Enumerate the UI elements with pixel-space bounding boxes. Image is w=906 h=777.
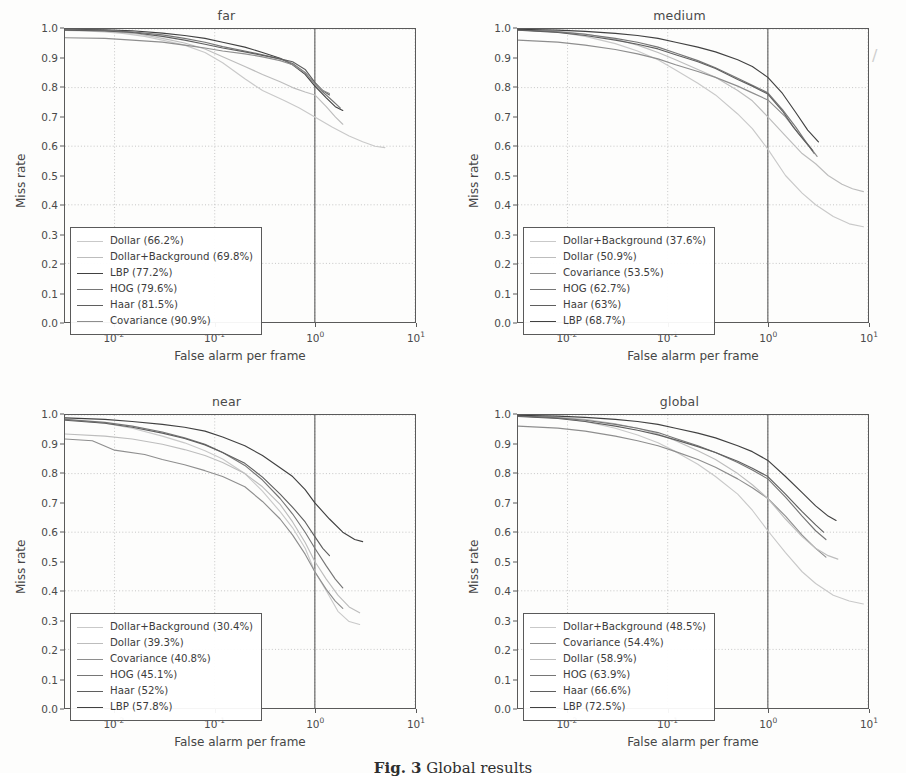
legend-label: Haar (66.6%) xyxy=(563,686,631,696)
caption-text: Global results xyxy=(426,759,532,777)
chart-legend[interactable]: Dollar+Background (48.5%)Covariance (54.… xyxy=(523,613,715,721)
legend-label: Dollar (66.2%) xyxy=(110,236,184,246)
y-axis-tick-mark xyxy=(513,414,517,415)
y-axis-tick-mark xyxy=(60,650,64,651)
y-axis-tick-mark xyxy=(60,414,64,415)
y-axis-tick-mark xyxy=(513,116,517,117)
y-axis-tick-mark xyxy=(60,709,64,710)
legend-label: Dollar+Background (37.6%) xyxy=(563,236,706,246)
legend-item[interactable]: Dollar (58.9%) xyxy=(530,651,706,667)
y-axis-tick-mark xyxy=(513,473,517,474)
y-axis-tick-label: 0.0 xyxy=(475,317,511,329)
y-axis-tick-label: 0.7 xyxy=(22,497,58,509)
legend-item[interactable]: Dollar+Background (69.8%) xyxy=(77,249,253,265)
legend-line-swatch-icon xyxy=(77,622,103,632)
caption-label: Fig. 3 xyxy=(374,759,422,777)
legend-item[interactable]: HOG (62.7%) xyxy=(530,281,706,297)
legend-label: Dollar (50.9%) xyxy=(563,252,637,262)
series-line-haar xyxy=(518,416,824,532)
y-axis-tick-label: 0.0 xyxy=(475,703,511,715)
y-axis-tick-mark xyxy=(513,620,517,621)
y-axis-tick-mark xyxy=(513,679,517,680)
legend-item[interactable]: Dollar+Background (48.5%) xyxy=(530,619,706,635)
y-axis-tick-mark xyxy=(513,234,517,235)
legend-item[interactable]: LBP (57.8%) xyxy=(77,699,253,715)
y-axis-tick-label: 0.8 xyxy=(475,467,511,479)
legend-item[interactable]: Covariance (90.9%) xyxy=(77,313,253,329)
chart-legend[interactable]: Dollar (66.2%)Dollar+Background (69.8%)L… xyxy=(70,227,262,335)
y-axis-tick-label: 0.8 xyxy=(22,467,58,479)
legend-label: Haar (81.5%) xyxy=(110,300,178,310)
y-axis-tick-label: 0.6 xyxy=(22,526,58,538)
y-axis-tick-mark xyxy=(513,146,517,147)
legend-item[interactable]: Covariance (40.8%) xyxy=(77,651,253,667)
y-axis-tick-label: 0.1 xyxy=(475,288,511,300)
series-line-dollar-background xyxy=(65,419,360,624)
legend-line-swatch-icon xyxy=(77,316,103,326)
legend-line-swatch-icon xyxy=(530,670,556,680)
y-axis-tick-label: 0.6 xyxy=(22,140,58,152)
legend-item[interactable]: Haar (52%) xyxy=(77,683,253,699)
legend-item[interactable]: Dollar (66.2%) xyxy=(77,233,253,249)
x-axis-tick-label: 100 xyxy=(306,330,324,344)
legend-label: Covariance (40.8%) xyxy=(110,654,211,664)
legend-label: Covariance (53.5%) xyxy=(563,268,664,278)
legend-label: LBP (72.5%) xyxy=(563,702,625,712)
series-line-dollar xyxy=(518,416,838,559)
legend-item[interactable]: LBP (72.5%) xyxy=(530,699,706,715)
chart-title: far xyxy=(0,8,453,23)
legend-item[interactable]: Haar (66.6%) xyxy=(530,683,706,699)
chart-legend[interactable]: Dollar+Background (30.4%)Dollar (39.3%)C… xyxy=(70,613,262,721)
legend-label: Dollar+Background (30.4%) xyxy=(110,622,253,632)
x-axis-tick-mark xyxy=(416,323,417,327)
legend-item[interactable]: LBP (68.7%) xyxy=(530,313,706,329)
y-axis-tick-label: 0.7 xyxy=(475,111,511,123)
y-axis-tick-label: 1.0 xyxy=(22,408,58,420)
x-axis-tick-label: 101 xyxy=(860,330,878,344)
y-axis-tick-mark xyxy=(60,679,64,680)
y-axis-tick-mark xyxy=(60,591,64,592)
y-axis-tick-mark xyxy=(513,650,517,651)
x-axis-label: False alarm per frame xyxy=(64,349,416,363)
y-axis-tick-mark xyxy=(60,146,64,147)
legend-item[interactable]: Covariance (54.4%) xyxy=(530,635,706,651)
legend-item[interactable]: Dollar+Background (30.4%) xyxy=(77,619,253,635)
legend-item[interactable]: Dollar (50.9%) xyxy=(530,249,706,265)
y-axis-tick-mark xyxy=(513,175,517,176)
legend-item[interactable]: HOG (79.6%) xyxy=(77,281,253,297)
legend-line-swatch-icon xyxy=(77,686,103,696)
legend-label: Dollar (58.9%) xyxy=(563,654,637,664)
legend-label: Covariance (90.9%) xyxy=(110,316,211,326)
legend-line-swatch-icon xyxy=(530,702,556,712)
y-axis-tick-mark xyxy=(513,709,517,710)
legend-item[interactable]: Haar (63%) xyxy=(530,297,706,313)
y-axis-tick-mark xyxy=(60,561,64,562)
series-line-haar xyxy=(518,30,813,150)
y-axis-tick-label: 0.0 xyxy=(22,703,58,715)
legend-line-swatch-icon xyxy=(77,300,103,310)
legend-item[interactable]: HOG (45.1%) xyxy=(77,667,253,683)
legend-item[interactable]: Dollar (39.3%) xyxy=(77,635,253,651)
x-axis-tick-mark xyxy=(768,709,769,713)
legend-line-swatch-icon xyxy=(530,316,556,326)
legend-label: Haar (63%) xyxy=(563,300,621,310)
legend-label: HOG (62.7%) xyxy=(563,284,630,294)
legend-line-swatch-icon xyxy=(530,686,556,696)
y-axis-tick-label: 1.0 xyxy=(22,22,58,34)
y-axis-tick-label: 0.2 xyxy=(22,258,58,270)
x-axis-tick-label: 101 xyxy=(860,716,878,730)
legend-line-swatch-icon xyxy=(77,284,103,294)
x-axis-label: False alarm per frame xyxy=(64,735,416,749)
legend-item[interactable]: LBP (77.2%) xyxy=(77,265,253,281)
legend-item[interactable]: Covariance (53.5%) xyxy=(530,265,706,281)
legend-item[interactable]: HOG (63.9%) xyxy=(530,667,706,683)
chart-legend[interactable]: Dollar+Background (37.6%)Dollar (50.9%)C… xyxy=(523,227,715,335)
y-axis-tick-mark xyxy=(60,116,64,117)
legend-item[interactable]: Haar (81.5%) xyxy=(77,297,253,313)
y-axis-tick-mark xyxy=(513,293,517,294)
legend-line-swatch-icon xyxy=(77,702,103,712)
x-axis-tick-label: 101 xyxy=(407,716,425,730)
x-axis-tick-label: 100 xyxy=(306,716,324,730)
legend-item[interactable]: Dollar+Background (37.6%) xyxy=(530,233,706,249)
y-axis-tick-label: 0.3 xyxy=(22,229,58,241)
